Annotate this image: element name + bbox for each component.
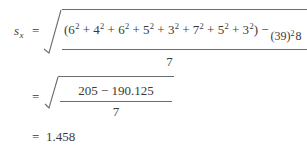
correction-minus: − [261, 22, 268, 37]
line3-result-value: 1.458 [46, 129, 75, 145]
sum-term: 32 [168, 22, 179, 37]
sum-plus: + [229, 22, 243, 37]
sum-plus: + [129, 22, 143, 37]
formula-figure: sx = (62 + 42 + 62 + 52 + 32 + 72 + 52 +… [0, 0, 307, 149]
sum-plus: + [79, 22, 93, 37]
sum-plus: + [154, 22, 168, 37]
sum-term: 52 [143, 22, 154, 37]
line2-denominator: 7 [60, 104, 172, 120]
line1-equals-sign: = [32, 23, 39, 39]
line1-variable-label: sx [14, 23, 24, 40]
sum-term: 52 [218, 22, 229, 37]
radical-overbar-line1 [62, 9, 307, 10]
sum-term: 32 [243, 22, 254, 37]
sum-term: 62 [118, 22, 129, 37]
line1-variable-subscript: x [19, 30, 23, 40]
sum-plus: + [204, 22, 218, 37]
correction-fraction: (39)28 [270, 27, 302, 44]
radical-sign-line2 [44, 76, 61, 116]
line2-equals-sign: = [32, 89, 39, 105]
line3-equals-sign: = [32, 129, 39, 145]
sum-term: 42 [93, 22, 104, 37]
line1-fraction-bar [62, 49, 307, 50]
line2-numerator: 205 − 190.125 [60, 83, 172, 99]
sum-term: 72 [193, 22, 204, 37]
sum-plus: + [179, 22, 193, 37]
line1-numerator: (62 + 42 + 62 + 52 + 32 + 72 + 52 + 32) … [64, 21, 302, 44]
radical-overbar-line2 [58, 76, 174, 77]
line2-fraction-bar [60, 101, 172, 102]
correction-denominator: 8 [296, 29, 302, 43]
sum-term: 62 [68, 22, 79, 37]
line1-denominator: 7 [62, 54, 277, 70]
sum-plus: + [104, 22, 118, 37]
correction-numerator: (39)2 [270, 29, 296, 43]
